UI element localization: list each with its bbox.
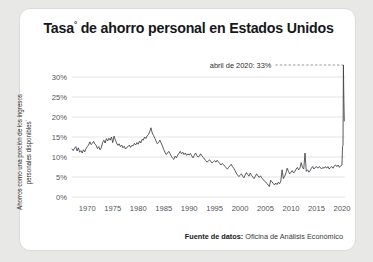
y-tick-label: 5%	[56, 173, 67, 182]
x-tick-label: 1985	[155, 204, 172, 213]
x-tick-label: 2005	[257, 204, 274, 213]
y-tick-label: 10%	[52, 153, 67, 162]
x-tick-label: 2015	[308, 204, 325, 213]
x-tick-label: 1980	[130, 204, 147, 213]
x-tick-label: 1995	[206, 204, 223, 213]
savings-rate-line	[72, 65, 344, 187]
x-tick-label: 2020	[333, 204, 350, 213]
y-tick-label: 25%	[52, 93, 67, 102]
line-chart-svg: 0%5%10%15%20%25%30%197019751980198519901…	[20, 9, 357, 252]
x-tick-label: 1970	[79, 204, 96, 213]
x-tick-label: 2000	[232, 204, 249, 213]
source-note: Fuente de datos: Oficina de Análisis Eco…	[185, 232, 343, 241]
source-label: Fuente de datos:	[185, 232, 243, 241]
y-tick-label: 30%	[52, 73, 67, 82]
source-value: Oficina de Análisis Económico	[245, 232, 343, 241]
y-tick-label: 15%	[52, 133, 67, 142]
plot-area: 0%5%10%15%20%25%30%197019751980198519901…	[20, 9, 357, 252]
x-tick-label: 1975	[104, 204, 121, 213]
y-tick-label: 20%	[52, 113, 67, 122]
x-tick-label: 2010	[283, 204, 300, 213]
y-tick-label: 0%	[56, 193, 67, 202]
x-tick-label: 1990	[181, 204, 198, 213]
chart-card: Tasa° de ahorro personal en Estados Unid…	[19, 8, 356, 251]
annotation-label-peak-2020: abril de 2020: 33%	[210, 61, 272, 70]
